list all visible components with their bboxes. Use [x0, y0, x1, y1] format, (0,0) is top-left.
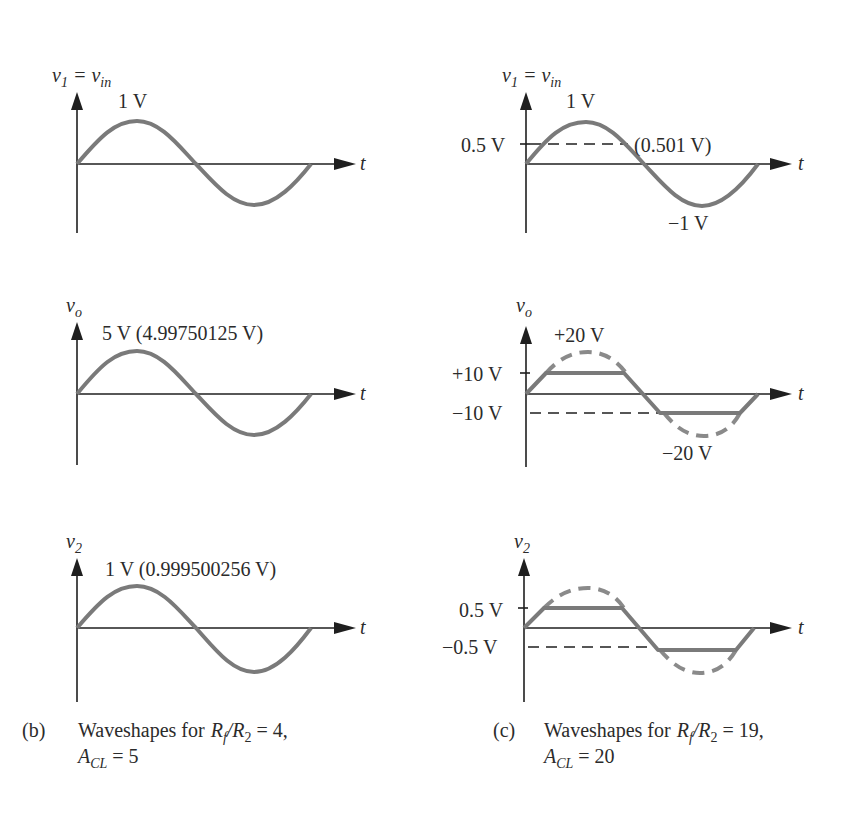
y-axis-arrow-icon	[71, 322, 83, 340]
sine-wave	[77, 351, 311, 435]
caption-c: (c) Waveshapes forRf/R2 = 19, ACL = 20	[493, 719, 764, 771]
sine-wave	[77, 121, 311, 205]
x-axis-arrow-icon	[770, 158, 792, 170]
trough-label: −20 V	[662, 442, 713, 464]
pos-level-label: 0.5 V	[459, 599, 504, 621]
x-axis-arrow-icon	[770, 388, 792, 400]
t-label: t	[798, 152, 804, 174]
y-axis-label: vo	[516, 294, 532, 320]
peak-label: 5 V (4.99750125 V)	[102, 322, 263, 345]
pos-level-label: +10 V	[452, 363, 503, 385]
caption-line1: Waveshapes forRf/R2 = 19,	[544, 719, 764, 745]
y-axis-label: v1 = vin	[502, 64, 561, 90]
y-axis-arrow-icon	[518, 558, 530, 576]
ideal-sine-upper-dashed	[544, 588, 624, 608]
caption-line2: ACL = 5	[76, 745, 139, 771]
level-label: 0.5 V	[461, 134, 506, 156]
peak-label: 1 V (0.999500256 V)	[105, 558, 276, 581]
caption-b: (b) Waveshapes forRf/R2 = 4, ACL = 5	[22, 719, 288, 771]
x-axis-arrow-icon	[334, 388, 356, 400]
level-note: (0.501 V)	[634, 134, 711, 157]
y-axis-label: v2	[66, 530, 82, 556]
x-axis-arrow-icon	[334, 622, 356, 634]
y-axis-label: v2	[514, 530, 530, 556]
ideal-sine-upper-dashed	[546, 352, 626, 373]
trough-label: −1 V	[668, 212, 709, 234]
x-axis-arrow-icon	[770, 622, 792, 634]
t-label: t	[360, 152, 366, 174]
caption-line1: Waveshapes forRf/R2 = 4,	[78, 719, 288, 745]
plot-b-vo: vo 5 V (4.99750125 V) t	[66, 294, 366, 465]
waveshape-figure: v1 = vin 1 V t vo 5 V (4.99750125 V) t v…	[0, 0, 860, 816]
t-label: t	[798, 382, 804, 404]
y-axis-label: vo	[66, 294, 82, 320]
caption-tag: (b)	[22, 719, 45, 742]
y-axis-arrow-icon	[520, 326, 532, 344]
plot-b-v2: v2 1 V (0.999500256 V) t	[66, 530, 366, 702]
clipped-wave	[524, 608, 754, 650]
y-axis-arrow-icon	[71, 92, 83, 110]
t-label: t	[798, 616, 804, 638]
peak-label: 1 V	[566, 90, 596, 112]
clipped-wave	[526, 373, 758, 413]
t-label: t	[360, 616, 366, 638]
t-label: t	[360, 382, 366, 404]
peak-label: +20 V	[554, 324, 605, 346]
plot-c-v2: v2 0.5 V −0.5 V t	[442, 530, 804, 702]
neg-level-label: −10 V	[452, 402, 503, 424]
y-axis-label: v1 = vin	[52, 64, 111, 90]
plot-c-vo: vo +20 V +10 V −10 V −20 V t	[452, 294, 804, 467]
peak-label: 1 V	[118, 90, 148, 112]
y-axis-arrow-icon	[71, 558, 83, 576]
neg-level-label: −0.5 V	[442, 636, 498, 658]
caption-tag: (c)	[493, 719, 515, 742]
plot-c-v1: v1 = vin 1 V 0.5 V (0.501 V) −1 V t	[461, 64, 804, 234]
caption-line2: ACL = 20	[542, 745, 615, 771]
ideal-sine-lower-dashed	[664, 413, 740, 436]
y-axis-arrow-icon	[520, 92, 532, 110]
ideal-sine-lower-dashed	[660, 650, 736, 673]
plot-b-v1: v1 = vin 1 V t	[52, 64, 366, 233]
sine-wave	[77, 586, 311, 672]
x-axis-arrow-icon	[334, 158, 356, 170]
